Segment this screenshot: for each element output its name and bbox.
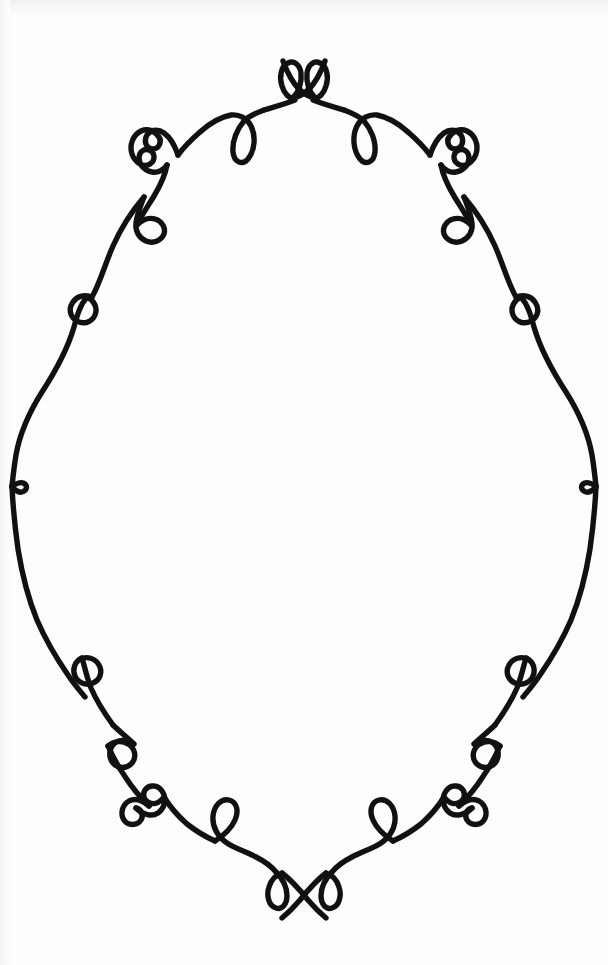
frame-right-half	[282, 61, 596, 918]
ornamental-oval-frame	[0, 0, 608, 965]
artwork-canvas: Decorative oval scroll frame ornamental-…	[0, 0, 608, 965]
frame-left-half	[12, 61, 326, 918]
